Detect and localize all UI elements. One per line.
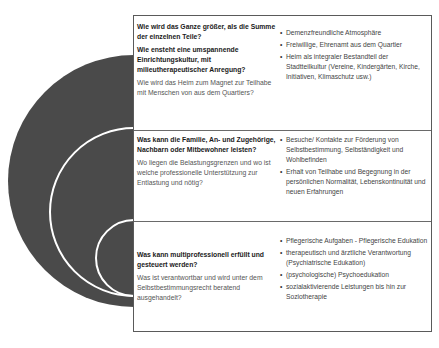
question: Was kann multiprofessionell erfüllt und …	[137, 250, 277, 270]
bullet-item: (psychologische) Psychoedukation	[280, 270, 430, 280]
question: Wie ensteht eine umspannende Einrichtung…	[137, 45, 277, 75]
question: Wie wird das Ganze größer, als die Summe…	[137, 22, 277, 42]
row-middle-bullets: Besuche/ Kontakte zur Förderung von Selb…	[280, 135, 430, 199]
row-inner-bullets: Pflegerische Aufgaben - Pflegerische Edu…	[280, 236, 430, 304]
bullet-item: Erhalt von Teilhabe und Begegnung in der…	[280, 167, 430, 197]
bullet-item: Demenzfreundliche Atmosphäre	[280, 28, 430, 38]
row-middle: Was kann die Familie, An- und Zugehörige…	[134, 130, 431, 221]
subtext: Was ist verantwortbar und wird unter dem…	[137, 273, 277, 303]
content-table: Wie wird das Ganze größer, als die Summe…	[133, 15, 432, 332]
row-outer-bullets: Demenzfreundliche Atmosphäre Freiwillige…	[280, 28, 430, 84]
row-middle-questions: Was kann die Familie, An- und Zugehörige…	[137, 135, 277, 188]
row-outer: Wie wird das Ganze größer, als die Summe…	[134, 16, 431, 130]
bullet-item: Freiwillige, Ehrenamt aus dem Quartier	[280, 40, 430, 50]
question: Was kann die Familie, An- und Zugehörige…	[137, 135, 277, 155]
bullet-item: Besuche/ Kontakte zur Förderung von Selb…	[280, 135, 430, 165]
row-inner-questions: Was kann multiprofessionell erfüllt und …	[137, 250, 277, 303]
subtext: Wo liegen die Belastungsgrenzen und wo i…	[137, 158, 277, 188]
subtext: Wie wird das Heim zum Magnet zur Teilhab…	[137, 78, 277, 98]
bullet-item: Heim als integraler Bestandteil der Stad…	[280, 52, 430, 82]
bullet-item: sozialaktivierende Leistungen bis hin zu…	[280, 282, 430, 302]
bullet-item: Pflegerische Aufgaben - Pflegerische Edu…	[280, 236, 430, 246]
bullet-item: therapeutisch und ärztliche Verantwortun…	[280, 248, 430, 268]
row-outer-questions: Wie wird das Ganze größer, als die Summe…	[137, 22, 277, 98]
row-inner: Was kann multiprofessionell erfüllt und …	[134, 221, 431, 332]
